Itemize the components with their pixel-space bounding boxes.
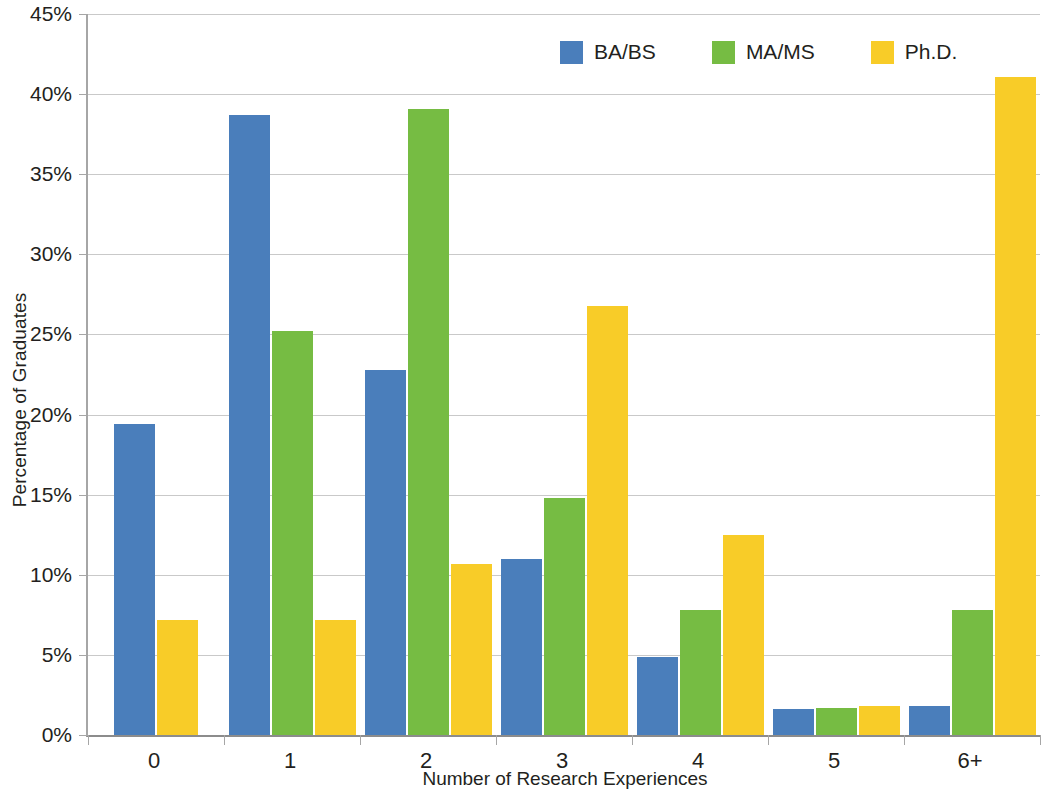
legend-swatch-icon xyxy=(560,41,583,64)
y-tick-mark xyxy=(79,415,88,416)
bar-chart: Percentage of Graduates 0%5%10%15%20%25%… xyxy=(0,0,1044,800)
bar xyxy=(637,657,678,736)
x-tick-mark xyxy=(360,735,361,745)
y-tick-label: 5% xyxy=(0,643,72,667)
x-tick-mark xyxy=(1040,735,1041,745)
legend-item[interactable]: MA/MS xyxy=(712,40,815,64)
y-tick-mark xyxy=(79,94,88,95)
bar xyxy=(157,620,198,735)
x-tick-mark xyxy=(768,735,769,745)
bar xyxy=(114,424,155,735)
bar xyxy=(859,706,900,735)
bar-group xyxy=(904,14,1040,735)
y-tick-label: 30% xyxy=(0,242,72,266)
bar xyxy=(773,709,814,735)
bar xyxy=(229,115,270,735)
bar xyxy=(408,109,449,735)
bar xyxy=(909,706,950,735)
legend-item[interactable]: BA/BS xyxy=(560,40,656,64)
y-tick-label: 15% xyxy=(0,483,72,507)
bar xyxy=(451,564,492,735)
bar xyxy=(723,535,764,735)
y-tick-label: 45% xyxy=(0,2,72,26)
legend-label: Ph.D. xyxy=(905,40,958,64)
legend-swatch-icon xyxy=(712,41,735,64)
x-tick-mark xyxy=(632,735,633,745)
bar-group xyxy=(360,14,496,735)
y-tick-label: 10% xyxy=(0,563,72,587)
bar-group xyxy=(768,14,904,735)
y-axis-title: Percentage of Graduates xyxy=(6,0,34,800)
bar xyxy=(365,370,406,735)
y-tick-mark xyxy=(79,495,88,496)
bar xyxy=(272,331,313,735)
x-tick-mark xyxy=(496,735,497,745)
y-tick-label: 25% xyxy=(0,322,72,346)
y-tick-mark xyxy=(79,14,88,15)
legend-label: BA/BS xyxy=(594,40,656,64)
bar xyxy=(680,610,721,735)
y-tick-mark xyxy=(79,334,88,335)
y-tick-mark xyxy=(79,174,88,175)
bar xyxy=(501,559,542,735)
y-tick-mark xyxy=(79,655,88,656)
y-tick-label: 35% xyxy=(0,162,72,186)
bar xyxy=(544,498,585,735)
bar xyxy=(587,306,628,735)
bar-group xyxy=(224,14,360,735)
y-tick-label: 40% xyxy=(0,82,72,106)
y-tick-label: 0% xyxy=(0,723,72,747)
bar-group xyxy=(496,14,632,735)
bar xyxy=(816,708,857,735)
legend-swatch-icon xyxy=(871,41,894,64)
y-tick-mark xyxy=(79,254,88,255)
bar xyxy=(952,610,993,735)
x-axis-title: Number of Research Experiences xyxy=(86,768,1044,790)
x-tick-mark xyxy=(88,735,89,745)
bar xyxy=(315,620,356,735)
legend: BA/BSMA/MSPh.D. xyxy=(560,40,957,64)
legend-label: MA/MS xyxy=(746,40,815,64)
x-tick-mark xyxy=(904,735,905,745)
bar-group xyxy=(632,14,768,735)
y-tick-label: 20% xyxy=(0,403,72,427)
y-tick-mark xyxy=(79,735,88,736)
bar xyxy=(995,77,1036,736)
legend-item[interactable]: Ph.D. xyxy=(871,40,958,64)
y-tick-mark xyxy=(79,575,88,576)
bar-group xyxy=(88,14,224,735)
x-tick-mark xyxy=(224,735,225,745)
plot-area xyxy=(86,14,1040,737)
